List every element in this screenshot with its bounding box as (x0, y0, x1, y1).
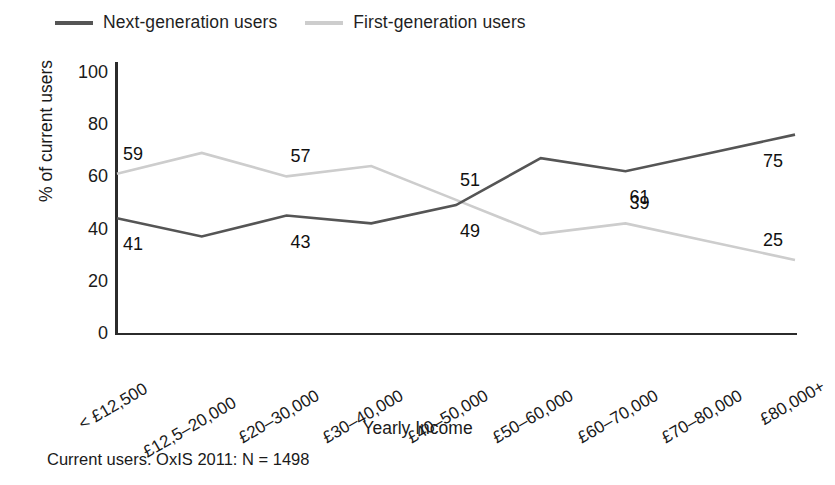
y-axis-tick-0: 0 (98, 323, 108, 344)
y-axis-tick-100: 100 (78, 62, 108, 83)
legend-label-next-generation-users: Next-generation users (103, 12, 277, 33)
chart-figure: Next-generation users First-generation u… (0, 0, 835, 485)
data-label-next-0: 41 (123, 234, 143, 255)
legend-item-next-generation-users: Next-generation users (55, 12, 277, 33)
chart-footnote: Current users. OxIS 2011: N = 1498 (47, 450, 309, 469)
y-axis-tick-20: 20 (88, 270, 108, 291)
data-label-next-4: 49 (460, 221, 480, 242)
data-label-next-2: 43 (290, 231, 310, 252)
x-axis-title: Yearly Income (0, 418, 835, 439)
legend-swatch-icon-first-generation-users (305, 21, 343, 25)
legend-label-first-generation-users: First-generation users (353, 12, 525, 33)
legend-item-first-generation-users: First-generation users (305, 12, 525, 33)
series-line-next-generation-users (117, 135, 795, 237)
data-label-first-6: 39 (629, 193, 649, 214)
data-label-next-8: 75 (763, 150, 783, 171)
legend-swatch-icon-next-generation-users (55, 21, 93, 25)
y-axis-tick-40: 40 (88, 218, 108, 239)
data-label-first-4: 51 (460, 169, 480, 190)
y-axis-tick-60: 60 (88, 166, 108, 187)
data-label-first-8: 25 (763, 229, 783, 250)
chart-legend: Next-generation users First-generation u… (55, 12, 526, 33)
data-label-first-0: 59 (123, 143, 143, 164)
data-label-first-2: 57 (290, 146, 310, 167)
plot-area: 020406080100 41434961755957513925 (117, 72, 795, 333)
x-axis-tick-labels: < £12,500£12,5–20,000£20–30,000£30–40,00… (117, 341, 795, 411)
y-axis-tick-80: 80 (88, 114, 108, 135)
y-axis-title: % of current users (36, 60, 57, 202)
series-lines (117, 72, 795, 333)
